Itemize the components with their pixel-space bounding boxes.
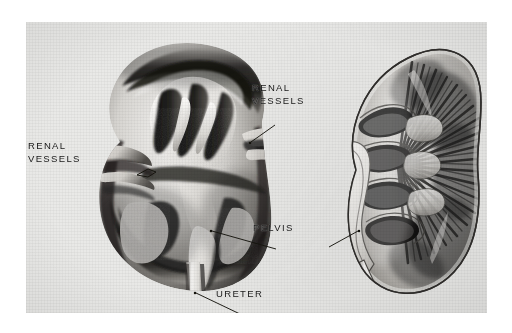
- label-renal-vessels-right-line1: RENAL: [252, 82, 305, 95]
- right-kidney-specimen: [344, 49, 487, 306]
- kidney-illustration: [26, 22, 487, 313]
- label-renal-vessels-left: RENAL VESSELS: [28, 140, 81, 165]
- label-renal-vessels-right-line2: VESSELS: [252, 95, 305, 108]
- figure-plate: RENAL VESSELS RENAL VESSELS PELVIS URETE…: [0, 0, 512, 333]
- label-renal-vessels-left-line2: VESSELS: [28, 153, 81, 166]
- label-pelvis: PELVIS: [253, 222, 294, 235]
- label-renal-vessels-left-line1: RENAL: [28, 140, 81, 153]
- plate-area: [26, 22, 487, 313]
- label-ureter: URETER: [216, 288, 263, 301]
- label-renal-vessels-right: RENAL VESSELS: [252, 82, 305, 107]
